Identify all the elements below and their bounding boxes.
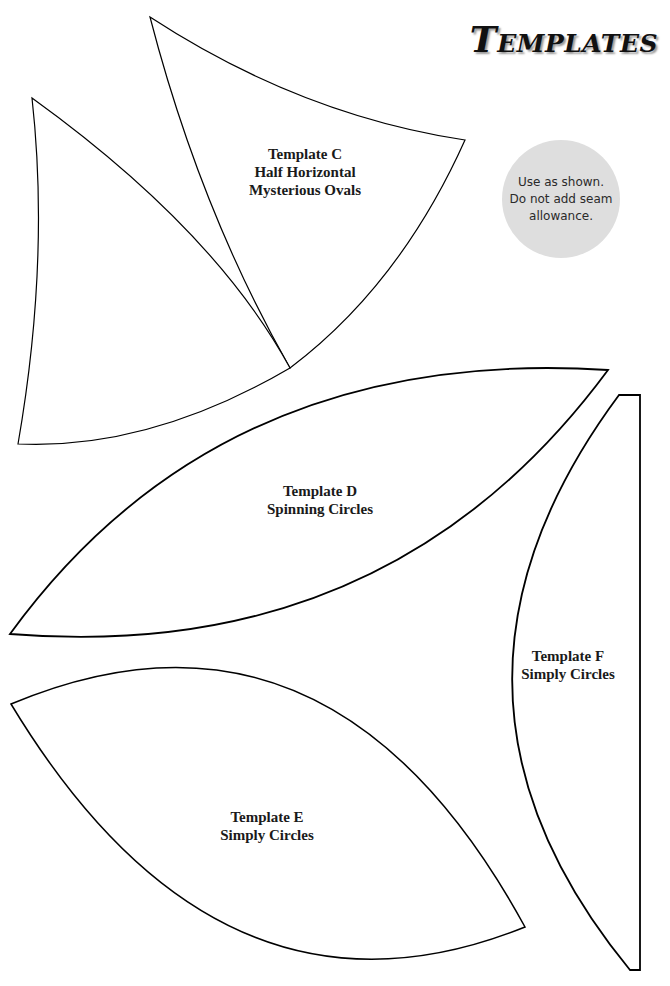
note-line-3: allowance. [529,208,593,225]
template-e-name: Template E [192,808,342,826]
template-d-label: Template D Spinning Circles [245,482,395,518]
note-line-2: Do not add seam [510,191,613,208]
template-d-name: Template D [245,482,395,500]
template-e-pattern-1: Simply Circles [192,826,342,844]
seam-allowance-note: Use as shown. Do not add seam allowance. [502,140,620,258]
template-c-pattern-1: Half Horizontal [230,163,380,181]
template-f-label: Template F Simply Circles [493,647,643,683]
template-c-name: Template C [230,145,380,163]
template-c-label: Template C Half Horizontal Mysterious Ov… [230,145,380,199]
template-f-name: Template F [493,647,643,665]
page-title: Templates [470,18,658,60]
template-d-pattern-1: Spinning Circles [245,500,395,518]
template-f-pattern-1: Simply Circles [493,665,643,683]
templates-page: Templates Use as shown. Do not add seam … [0,0,670,986]
note-line-1: Use as shown. [518,174,604,191]
template-c-pattern-2: Mysterious Ovals [230,181,380,199]
template-e-label: Template E Simply Circles [192,808,342,844]
